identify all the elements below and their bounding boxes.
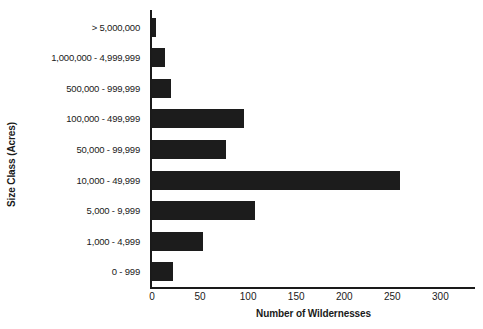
y-tick-label: 100,000 - 499,999 — [18, 104, 146, 135]
bar — [152, 201, 255, 220]
x-axis-title: Number of Wildernesses — [152, 308, 475, 319]
bar-slot — [152, 195, 475, 226]
bar — [152, 48, 165, 67]
x-tick-label: 300 — [432, 291, 449, 302]
bar — [152, 171, 400, 190]
y-tick-label: 5,000 - 9,999 — [18, 195, 146, 226]
bar — [152, 18, 156, 37]
bar-slot — [152, 104, 475, 135]
y-axis-tick-labels: > 5,000,000 1,000,000 - 4,999,999 500,00… — [18, 12, 146, 287]
x-tick-label: 100 — [240, 291, 257, 302]
x-axis-tick-labels: 050100150200250300 — [152, 291, 475, 307]
bar-chart: Size Class (Acres) > 5,000,000 1,000,000… — [0, 0, 483, 329]
x-tick-label: 0 — [149, 291, 155, 302]
bar-slot — [152, 226, 475, 257]
x-tick-label: 50 — [195, 291, 206, 302]
y-tick-label: 1,000 - 4,999 — [18, 226, 146, 257]
bar-slot — [152, 257, 475, 288]
bar-slot — [152, 12, 475, 43]
plot-area — [152, 12, 475, 287]
y-tick-label: 1,000,000 - 4,999,999 — [18, 43, 146, 74]
y-tick-label: 10,000 - 49,999 — [18, 165, 146, 196]
x-tick-label: 150 — [288, 291, 305, 302]
bar-slot — [152, 73, 475, 104]
y-tick-label: 0 - 999 — [18, 257, 146, 288]
x-axis-line — [150, 287, 475, 289]
y-tick-label: 500,000 - 999,999 — [18, 73, 146, 104]
bar — [152, 140, 226, 159]
y-tick-label: 50,000 - 99,999 — [18, 134, 146, 165]
y-tick-label: > 5,000,000 — [18, 12, 146, 43]
x-tick-label: 250 — [384, 291, 401, 302]
bar — [152, 79, 171, 98]
bar — [152, 262, 173, 281]
bar-series — [152, 12, 475, 287]
bar-slot — [152, 165, 475, 196]
x-tick-label: 200 — [336, 291, 353, 302]
bar-slot — [152, 43, 475, 74]
y-axis-line — [150, 10, 152, 289]
bar — [152, 232, 203, 251]
bar — [152, 109, 244, 128]
bar-slot — [152, 134, 475, 165]
